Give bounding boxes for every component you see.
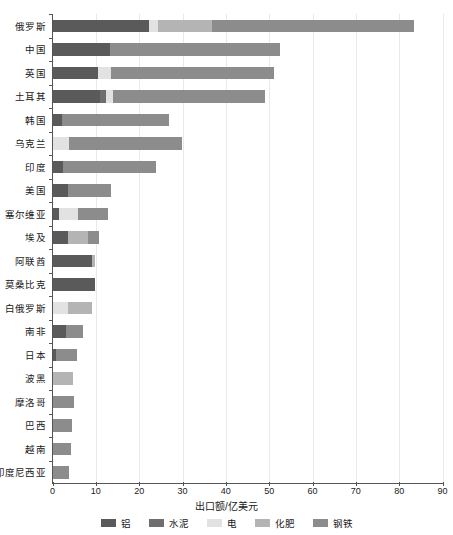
bar-segment-化肥 xyxy=(68,231,88,244)
bar-row xyxy=(53,161,157,174)
y-axis-label: 越南 xyxy=(25,442,46,456)
bar-segment-铝 xyxy=(53,325,66,338)
bar-segment-化肥 xyxy=(158,20,212,33)
y-axis-label: 印度尼西亚 xyxy=(0,465,46,479)
bar-segment-电 xyxy=(59,208,78,221)
bar-segment-铝 xyxy=(53,67,99,80)
bar-segment-钢铁 xyxy=(110,43,280,56)
stacked-bar-chart: 俄罗斯中国英国土耳其韩国乌克兰印度美国塞尔维亚埃及阿联酋莫桑比克白俄罗斯南非日本… xyxy=(0,0,453,535)
bar-segment-铝 xyxy=(53,231,69,244)
y-axis-label: 白俄罗斯 xyxy=(5,301,46,315)
bar-row xyxy=(53,372,73,385)
y-axis-label: 乌克兰 xyxy=(15,136,46,150)
y-axis-label: 韩国 xyxy=(25,113,46,127)
y-axis-label: 美国 xyxy=(25,183,46,197)
legend-swatch-icon xyxy=(101,519,116,527)
gridline xyxy=(356,14,357,484)
bar-segment-铝 xyxy=(53,114,63,127)
x-tick-label: 30 xyxy=(177,486,187,496)
bar-row xyxy=(53,419,73,432)
bar-segment-钢铁 xyxy=(68,184,111,197)
bar-segment-电 xyxy=(98,67,111,80)
gridline xyxy=(269,14,270,484)
bar-segment-铝 xyxy=(53,208,60,221)
y-tick-mark xyxy=(49,343,53,344)
bar-segment-铝 xyxy=(53,278,96,291)
bar-segment-化肥 xyxy=(68,302,92,315)
y-tick-mark xyxy=(49,249,53,250)
bar-row xyxy=(53,208,108,221)
legend-swatch-icon xyxy=(255,519,270,527)
y-axis-label: 摩洛哥 xyxy=(15,395,46,409)
x-tick-label: 40 xyxy=(221,486,231,496)
x-tick-label: 50 xyxy=(264,486,274,496)
gridline xyxy=(399,14,400,484)
legend-label: 电 xyxy=(227,516,237,530)
bar-segment-电 xyxy=(53,302,69,315)
bar-segment-化肥 xyxy=(92,255,95,268)
gridline xyxy=(443,14,444,484)
y-tick-mark xyxy=(49,390,53,391)
bar-row xyxy=(53,90,266,103)
x-axis-title: 出口额/亿美元 xyxy=(0,498,453,513)
legend-item-水泥[interactable]: 水泥 xyxy=(149,516,189,530)
bar-segment-铝 xyxy=(53,161,63,174)
bar-segment-钢铁 xyxy=(63,161,157,174)
bar-segment-钢铁 xyxy=(69,137,182,150)
gridline xyxy=(226,14,227,484)
bar-segment-电 xyxy=(106,90,113,103)
legend-label: 化肥 xyxy=(275,516,295,530)
x-tick-label: 80 xyxy=(394,486,404,496)
bar-segment-钢铁 xyxy=(53,396,74,409)
y-tick-mark xyxy=(49,367,53,368)
bar-segment-钢铁 xyxy=(62,114,169,127)
bar-segment-钢铁 xyxy=(88,231,99,244)
legend-item-铝[interactable]: 铝 xyxy=(101,516,131,530)
bar-row xyxy=(53,255,95,268)
x-tick-label: 10 xyxy=(91,486,101,496)
y-tick-mark xyxy=(49,461,53,462)
y-tick-mark xyxy=(49,414,53,415)
y-axis-label: 英国 xyxy=(25,66,46,80)
bar-row xyxy=(53,466,69,479)
y-axis-label: 埃及 xyxy=(25,230,46,244)
bar-row xyxy=(53,43,280,56)
legend-swatch-icon xyxy=(207,519,222,527)
x-tick-label: 90 xyxy=(437,486,447,496)
bar-segment-电 xyxy=(53,137,70,150)
y-tick-mark xyxy=(49,132,53,133)
y-tick-mark xyxy=(49,179,53,180)
y-axis-label: 印度 xyxy=(25,160,46,174)
y-tick-mark xyxy=(49,296,53,297)
y-axis-label: 土耳其 xyxy=(15,89,46,103)
y-axis-label: 波黑 xyxy=(25,371,46,385)
y-tick-mark xyxy=(49,273,53,274)
bar-row xyxy=(53,396,74,409)
y-axis-label: 日本 xyxy=(25,348,46,362)
legend-item-电[interactable]: 电 xyxy=(207,516,237,530)
legend-label: 铝 xyxy=(121,516,131,530)
bar-segment-钢铁 xyxy=(53,466,69,479)
y-tick-mark xyxy=(49,108,53,109)
gridline xyxy=(183,14,184,484)
y-axis-label: 巴西 xyxy=(25,418,46,432)
legend-label: 钢铁 xyxy=(333,516,353,530)
bar-row xyxy=(53,231,99,244)
y-axis-label: 塞尔维亚 xyxy=(5,207,46,221)
legend-item-化肥[interactable]: 化肥 xyxy=(255,516,295,530)
y-axis-label: 俄罗斯 xyxy=(15,19,46,33)
legend-swatch-icon xyxy=(149,519,164,527)
x-tick-label: 60 xyxy=(307,486,317,496)
legend-label: 水泥 xyxy=(169,516,189,530)
bar-segment-钢铁 xyxy=(78,208,108,221)
y-axis-label: 中国 xyxy=(25,42,46,56)
legend-item-钢铁[interactable]: 钢铁 xyxy=(313,516,353,530)
bar-row xyxy=(53,325,83,338)
bar-segment-化肥 xyxy=(53,372,73,385)
bar-row xyxy=(53,278,96,291)
bar-segment-铝 xyxy=(53,43,111,56)
y-tick-mark xyxy=(49,155,53,156)
bar-row xyxy=(53,67,274,80)
bar-segment-钢铁 xyxy=(53,443,72,456)
bar-segment-铝 xyxy=(53,184,69,197)
